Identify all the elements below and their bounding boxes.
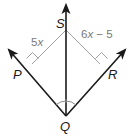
- right-angle-mark-p: [27, 53, 39, 59]
- measure-sp-var: x: [36, 36, 44, 48]
- label-p: P: [13, 67, 22, 82]
- measure-sr: 6x − 5: [81, 28, 113, 40]
- angle-bisector-diagram: S P R Q 5x 6x − 5: [0, 0, 134, 137]
- label-s: S: [56, 16, 65, 31]
- measure-sr-rest: − 5: [93, 28, 113, 40]
- label-r: R: [108, 67, 117, 82]
- ray-qp: [9, 50, 66, 116]
- right-angle-mark-r: [96, 53, 108, 59]
- measure-sp: 5x: [31, 36, 44, 48]
- label-q: Q: [60, 119, 70, 134]
